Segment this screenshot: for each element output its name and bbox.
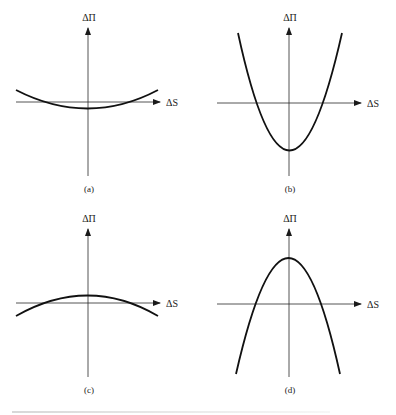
panel-d: ΔΠ ΔS (d) (217, 213, 379, 395)
curve-b (238, 33, 342, 151)
panel-caption: (a) (84, 184, 94, 194)
bottom-divider (12, 411, 330, 413)
y-axis-label: ΔΠ (283, 12, 297, 23)
panel-c: ΔΠ ΔS (c) (16, 213, 178, 395)
curve-c (16, 296, 158, 317)
curve-d (236, 258, 340, 374)
x-axis-label: ΔS (166, 97, 178, 108)
y-axis-label: ΔΠ (283, 213, 297, 224)
panel-b: ΔΠ ΔS (b) (217, 12, 379, 194)
curve-a (16, 90, 158, 109)
panel-caption: (d) (285, 385, 296, 395)
x-axis-label: ΔS (367, 98, 379, 109)
panel-a: ΔΠ ΔS (a) (16, 12, 178, 194)
panel-caption: (b) (285, 184, 296, 194)
y-axis-label: ΔΠ (82, 213, 96, 224)
x-axis-label: ΔS (166, 298, 178, 309)
figure-diagram: ΔΠ ΔS (a) ΔΠ ΔS (b) ΔΠ ΔS (c) ΔΠ ΔS (d) (0, 0, 396, 415)
x-axis-label: ΔS (367, 299, 379, 310)
panel-caption: (c) (84, 385, 94, 395)
y-axis-label: ΔΠ (82, 12, 96, 23)
